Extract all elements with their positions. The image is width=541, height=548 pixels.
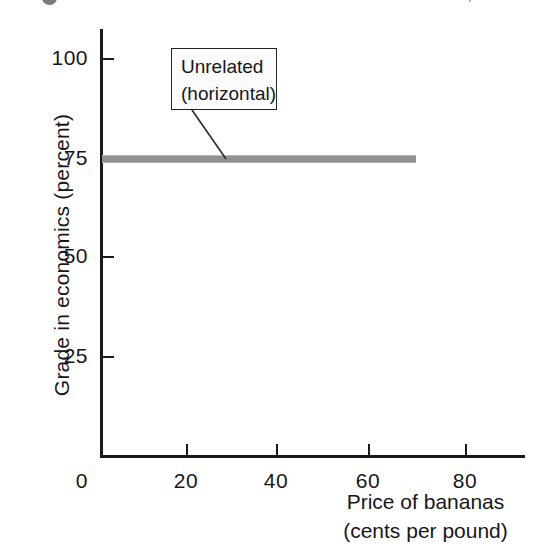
x-axis-tick-60	[368, 444, 370, 456]
x-axis-line	[100, 455, 525, 458]
y-axis-tick-100	[103, 58, 114, 60]
annotation-callout-line1: Unrelated	[181, 53, 267, 80]
figure-bullet-artifact-icon	[42, 0, 57, 5]
y-axis-ticklabel-0: 0	[20, 469, 88, 493]
x-axis-title-line1: Price of bananas	[318, 487, 533, 516]
x-axis-tick-40	[276, 444, 278, 456]
x-axis-title-line2: (cents per pound)	[318, 516, 533, 545]
series-unrelated-horizontal-line	[102, 155, 416, 163]
x-axis-title: Price of bananas (cents per pound)	[318, 487, 533, 545]
y-axis-tick-50	[103, 256, 114, 258]
figure-header-artifact-icon	[469, 0, 471, 2]
x-axis-ticklabel-20: 20	[174, 469, 198, 493]
y-axis-ticklabel-100: 100	[20, 46, 88, 70]
chart-figure: 100 75 50 25 0 20 40 60 80 Grade in econ…	[0, 0, 541, 548]
x-axis-ticklabel-40: 40	[264, 469, 288, 493]
y-axis-tick-25	[103, 356, 114, 358]
annotation-callout-line2: (horizontal)	[181, 80, 267, 107]
annotation-callout-unrelated: Unrelated (horizontal)	[171, 48, 277, 110]
x-axis-tick-80	[465, 444, 467, 456]
y-axis-line	[100, 29, 103, 458]
y-axis-title: Grade in economics (percent)	[50, 90, 74, 420]
x-axis-tick-20	[186, 444, 188, 456]
